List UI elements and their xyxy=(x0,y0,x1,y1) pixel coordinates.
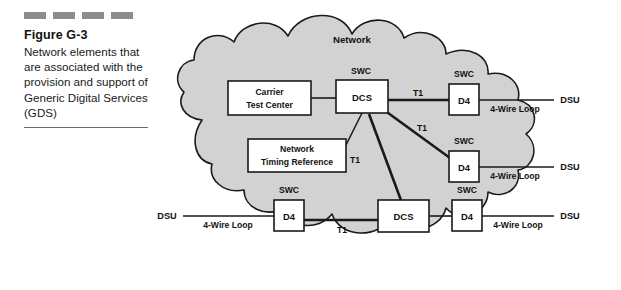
decorative-dash-icon xyxy=(24,12,46,19)
node-network-timing-reference: Network Timing Reference xyxy=(248,139,346,172)
node-label-d4-top: D4 xyxy=(458,95,471,106)
node-label-ntr-line2: Timing Reference xyxy=(261,157,333,167)
loop-label-bottom-right: 4-Wire Loop xyxy=(493,220,543,230)
dsu-label-top-right: DSU xyxy=(560,95,580,105)
dsu-label-bottom-left: DSU xyxy=(157,211,177,221)
caption-divider xyxy=(24,127,148,128)
figure-number: Figure G-3 xyxy=(24,28,156,42)
decorative-dash-icon xyxy=(82,12,104,19)
node-carrier-test-center: Carrier Test Center xyxy=(228,81,311,115)
dsu-label-mid-right: DSU xyxy=(560,162,580,172)
node-label-ntr-line1: Network xyxy=(280,144,314,154)
swc-label-d4-top: SWC xyxy=(454,69,474,79)
node-label-carrier-line1: Carrier xyxy=(255,87,284,97)
decorative-dash-row xyxy=(24,12,156,19)
decorative-dash-icon xyxy=(53,12,75,19)
loop-label-top-right: 4-Wire Loop xyxy=(490,104,540,114)
cloud-label: Network xyxy=(333,34,372,45)
figure-g3-root: Figure G-3 Network elements that are ass… xyxy=(0,0,621,290)
decorative-dash-icon xyxy=(111,12,133,19)
node-label-dcs-bottom: DCS xyxy=(394,211,414,222)
node-label-d4-bottom-left: D4 xyxy=(283,211,296,222)
loop-label-mid-right: 4-Wire Loop xyxy=(490,171,540,181)
figure-caption-text: Network elements that are associated wit… xyxy=(24,44,152,120)
node-label-carrier-line2: Test Center xyxy=(246,100,293,110)
t1-label-top: T1 xyxy=(413,88,423,98)
node-dcs-bottom: DCS xyxy=(378,200,429,232)
node-label-d4-bottom-right: D4 xyxy=(461,211,474,222)
figure-caption-block: Figure G-3 Network elements that are ass… xyxy=(24,12,156,128)
t1-label-diagonal: T1 xyxy=(350,155,360,165)
t1-label-bottom: T1 xyxy=(337,225,347,235)
dsu-label-bottom-right: DSU xyxy=(560,211,580,221)
swc-label-d4-bottom-right: SWC xyxy=(457,185,477,195)
node-label-dcs-top: DCS xyxy=(352,92,372,103)
network-diagram: Network xyxy=(150,0,621,290)
swc-label-d4-bottom-left: SWC xyxy=(279,185,299,195)
swc-label-dcs-top: SWC xyxy=(351,66,371,76)
t1-label-mid: T1 xyxy=(417,123,427,133)
loop-label-bottom-left: 4-Wire Loop xyxy=(203,220,253,230)
node-label-d4-mid: D4 xyxy=(458,162,471,173)
swc-label-d4-mid: SWC xyxy=(454,136,474,146)
